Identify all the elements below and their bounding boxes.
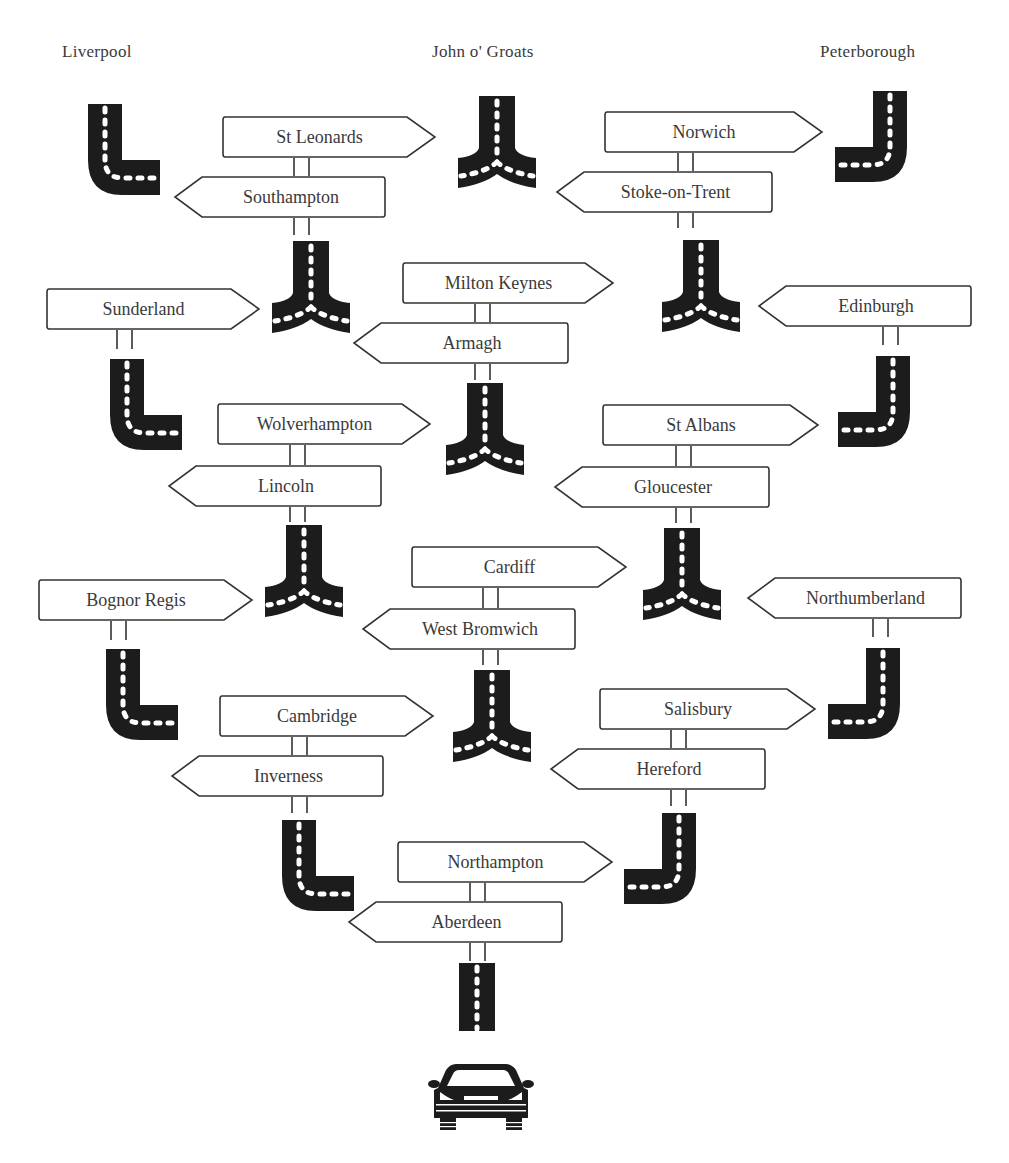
sign-post xyxy=(293,158,311,176)
signpost-gloucester-left: Gloucester xyxy=(554,466,770,508)
road-turn-left-icon xyxy=(828,648,900,739)
road-turn-right-icon xyxy=(88,104,160,195)
signpost-northumberland-left: Northumberland xyxy=(747,577,962,619)
sign-post xyxy=(289,507,307,522)
road-fork xyxy=(265,525,343,618)
road-turn-right-icon xyxy=(106,649,178,740)
sign-label: Northumberland xyxy=(769,577,962,619)
sign-label: Aberdeen xyxy=(370,901,563,943)
road-turn-left-to-right xyxy=(110,359,182,450)
road-fork xyxy=(446,383,524,476)
signpost-sunderland-right: Sunderland xyxy=(46,288,259,330)
signpost-inverness-left: Inverness xyxy=(171,755,384,797)
road-straight xyxy=(459,963,495,1031)
straight-road-icon xyxy=(459,963,495,1031)
road-turn-left-icon xyxy=(624,813,696,904)
sign-label: St Leonards xyxy=(222,116,417,158)
road-fork-icon xyxy=(265,525,343,618)
signpost-stoke-on-trent-left: Stoke-on-Trent xyxy=(556,171,773,213)
sign-post xyxy=(675,446,693,466)
sign-post xyxy=(289,445,307,465)
road-turn-left-to-right xyxy=(88,104,160,195)
sign-post xyxy=(882,327,900,345)
road-turn-left-icon xyxy=(838,356,910,447)
signpost-hereford-left: Hereford xyxy=(550,748,766,790)
destination-label: John o' Groats xyxy=(432,42,534,62)
road-fork xyxy=(643,528,721,621)
signpost-northampton-right: Northampton xyxy=(397,841,612,883)
signpost-west-bromwich-left: West Bromwich xyxy=(362,608,576,650)
sign-label: Salisbury xyxy=(599,688,797,730)
signpost-aberdeen-left: Aberdeen xyxy=(348,901,563,943)
road-turn-right-to-left xyxy=(838,356,910,447)
sign-post xyxy=(872,619,890,637)
sign-label: Inverness xyxy=(193,755,384,797)
road-turn-right-icon xyxy=(110,359,182,450)
signpost-st-albans-right: St Albans xyxy=(602,404,818,446)
sign-post xyxy=(291,737,309,755)
signpost-bognor-regis-right: Bognor Regis xyxy=(38,579,252,621)
signpost-milton-keynes-right: Milton Keynes xyxy=(402,262,613,304)
sign-label: Cardiff xyxy=(411,546,608,588)
sign-label: Hereford xyxy=(572,748,766,790)
signpost-st-leonards-right: St Leonards xyxy=(222,116,435,158)
sign-post xyxy=(675,508,693,523)
road-turn-right-icon xyxy=(282,820,354,911)
signpost-armagh-left: Armagh xyxy=(353,322,569,364)
signpost-cambridge-right: Cambridge xyxy=(219,695,433,737)
signpost-lincoln-left: Lincoln xyxy=(168,465,382,507)
sign-label: Norwich xyxy=(604,111,804,153)
sign-label: Milton Keynes xyxy=(402,262,595,304)
sign-label: Cambridge xyxy=(219,695,415,737)
sign-label: Sunderland xyxy=(46,288,241,330)
sign-label: Northampton xyxy=(397,841,594,883)
sign-label: Stoke-on-Trent xyxy=(578,171,773,213)
sign-label: West Bromwich xyxy=(384,608,576,650)
sign-post xyxy=(469,883,487,901)
signpost-norwich-right: Norwich xyxy=(604,111,822,153)
sign-post xyxy=(482,588,500,608)
sign-post xyxy=(474,364,492,380)
road-fork-icon xyxy=(662,240,740,333)
destination-label: Liverpool xyxy=(62,42,132,62)
car-icon xyxy=(428,1062,534,1132)
sign-post xyxy=(110,621,128,640)
signpost-southampton-left: Southampton xyxy=(174,176,386,218)
road-fork-icon xyxy=(458,96,536,189)
sign-post xyxy=(474,304,492,322)
sign-post xyxy=(677,213,695,228)
sign-label: Wolverhampton xyxy=(217,403,412,445)
road-turn-left-to-right xyxy=(282,820,354,911)
signpost-edinburgh-left: Edinburgh xyxy=(758,285,972,327)
sign-label: Armagh xyxy=(375,322,569,364)
sign-post xyxy=(293,218,311,235)
road-fork xyxy=(272,241,350,334)
road-turn-left-icon xyxy=(835,91,907,182)
road-fork xyxy=(458,96,536,189)
signpost-wolverhampton-right: Wolverhampton xyxy=(217,403,430,445)
road-fork-icon xyxy=(453,670,531,763)
road-fork-icon xyxy=(272,241,350,334)
sign-post xyxy=(670,790,688,806)
road-turn-right-to-left xyxy=(624,813,696,904)
sign-label: Edinburgh xyxy=(780,285,972,327)
road-fork-icon xyxy=(446,383,524,476)
road-fork-icon xyxy=(643,528,721,621)
sign-post xyxy=(116,330,134,349)
signpost-cardiff-right: Cardiff xyxy=(411,546,626,588)
sign-label: Southampton xyxy=(196,176,386,218)
signpost-salisbury-right: Salisbury xyxy=(599,688,815,730)
sign-post xyxy=(677,153,695,171)
sign-post xyxy=(469,943,487,961)
road-fork xyxy=(662,240,740,333)
sign-label: St Albans xyxy=(602,404,800,446)
road-turn-right-to-left xyxy=(828,648,900,739)
road-fork xyxy=(453,670,531,763)
sign-label: Bognor Regis xyxy=(38,579,234,621)
sign-label: Lincoln xyxy=(190,465,382,507)
road-turn-right-to-left xyxy=(835,91,907,182)
sign-post xyxy=(291,797,309,813)
sign-post xyxy=(482,650,500,665)
road-turn-left-to-right xyxy=(106,649,178,740)
sign-label: Gloucester xyxy=(576,466,770,508)
